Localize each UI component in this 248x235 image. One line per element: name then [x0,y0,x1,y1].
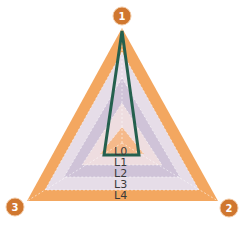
axis-badge-3-label: 3 [12,202,19,213]
axis-badge-1-label: 1 [119,11,126,22]
axis-badge-1: 1 [113,7,131,25]
axis-badge-3: 3 [6,198,24,216]
radar-chart: L0 L1 L2 L3 L4 1 2 3 [0,0,248,235]
axis-badge-2: 2 [220,199,238,217]
axis-badge-2-label: 2 [226,203,233,214]
level-label-l4: L4 [114,189,127,202]
